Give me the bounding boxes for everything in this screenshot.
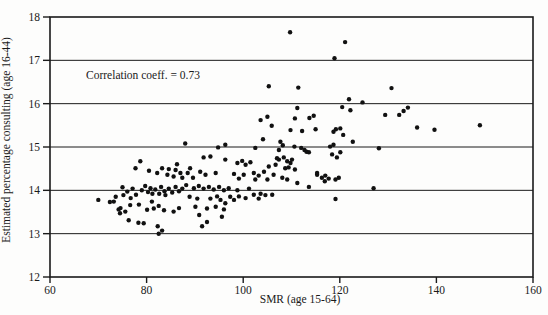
- data-point: [232, 172, 236, 176]
- x-tick-label: 60: [44, 284, 56, 296]
- data-point: [165, 173, 169, 177]
- data-point: [118, 211, 122, 215]
- data-point: [338, 126, 342, 130]
- data-point: [252, 171, 256, 175]
- data-point: [235, 188, 239, 192]
- data-point: [157, 192, 161, 196]
- data-point: [188, 166, 192, 170]
- data-point: [270, 193, 274, 197]
- data-point: [125, 189, 129, 193]
- data-point: [293, 116, 297, 120]
- data-point: [223, 143, 227, 147]
- data-point: [167, 167, 171, 171]
- data-point: [217, 185, 221, 189]
- data-point: [171, 174, 175, 178]
- data-point: [300, 129, 304, 133]
- data-point: [208, 196, 212, 200]
- data-point: [177, 206, 181, 210]
- data-point: [203, 173, 207, 177]
- data-point: [315, 171, 319, 175]
- data-point: [222, 188, 226, 192]
- data-point: [167, 186, 171, 190]
- scatter-figure: 12131415161718 6080100120140160 Correlat…: [0, 0, 548, 315]
- data-point: [257, 196, 261, 200]
- data-point: [150, 199, 154, 203]
- data-point: [286, 165, 290, 169]
- data-point: [296, 85, 300, 89]
- data-point: [401, 109, 405, 113]
- data-point: [201, 186, 205, 190]
- data-point: [96, 198, 100, 202]
- data-point: [277, 148, 281, 152]
- data-point: [156, 224, 160, 228]
- data-point: [232, 198, 236, 202]
- data-point: [184, 183, 188, 187]
- data-point: [292, 144, 296, 148]
- data-point: [218, 198, 222, 202]
- data-point: [331, 143, 335, 147]
- data-point: [258, 192, 262, 196]
- data-point: [389, 86, 393, 90]
- data-point: [406, 105, 410, 109]
- y-tick-label: 16: [29, 98, 41, 110]
- data-point: [163, 193, 167, 197]
- data-point: [265, 177, 269, 181]
- data-point: [281, 143, 285, 147]
- data-point: [271, 173, 275, 177]
- data-point: [191, 176, 195, 180]
- data-point: [150, 192, 154, 196]
- data-point: [153, 187, 157, 191]
- data-point: [313, 127, 317, 131]
- data-point: [288, 128, 292, 132]
- data-point: [265, 115, 269, 119]
- data-point: [258, 118, 262, 122]
- data-point: [295, 106, 299, 110]
- data-point: [247, 186, 251, 190]
- data-point: [223, 201, 227, 205]
- y-tick-label: 18: [29, 11, 41, 23]
- data-point: [214, 171, 218, 175]
- data-point: [207, 185, 211, 189]
- data-point: [162, 208, 166, 212]
- x-tick-label: 140: [428, 284, 446, 296]
- data-point: [397, 113, 401, 117]
- data-point: [340, 105, 344, 109]
- data-point: [261, 137, 265, 141]
- data-point: [262, 170, 266, 174]
- data-point: [121, 193, 125, 197]
- data-point: [128, 203, 132, 207]
- data-point: [252, 193, 256, 197]
- data-points: [96, 30, 482, 236]
- data-point: [293, 167, 297, 171]
- data-point: [273, 163, 277, 167]
- data-point: [129, 196, 133, 200]
- data-point: [253, 177, 257, 181]
- data-point: [160, 166, 164, 170]
- data-point: [186, 171, 190, 175]
- data-point: [148, 186, 152, 190]
- data-point: [145, 208, 149, 212]
- data-point: [415, 125, 419, 129]
- data-point: [157, 204, 161, 208]
- correlation-annotation: Correlation coeff. = 0.73: [86, 69, 200, 81]
- y-axis-ticks: [43, 17, 50, 277]
- data-point: [383, 113, 387, 117]
- data-point: [143, 184, 147, 188]
- data-point: [137, 202, 141, 206]
- y-tick-labels: 12131415161718: [29, 11, 41, 283]
- data-point: [243, 196, 247, 200]
- data-point: [327, 176, 331, 180]
- data-point: [335, 155, 339, 159]
- data-point: [267, 84, 271, 88]
- y-tick-label: 17: [29, 54, 41, 66]
- data-point: [212, 187, 216, 191]
- data-point: [162, 189, 166, 193]
- data-point: [130, 186, 134, 190]
- data-point: [114, 195, 118, 199]
- data-point: [243, 163, 247, 167]
- data-point: [146, 190, 150, 194]
- data-point: [240, 159, 244, 163]
- data-point: [333, 197, 337, 201]
- data-point: [120, 185, 124, 189]
- x-tick-label: 80: [141, 284, 153, 296]
